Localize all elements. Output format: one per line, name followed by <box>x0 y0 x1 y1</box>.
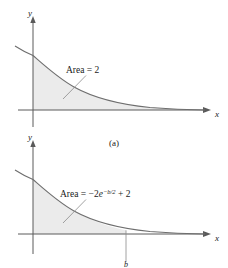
y-axis-label-b: y <box>27 134 32 142</box>
tick-label-b: b <box>124 260 128 268</box>
panel-a: y x Area = 2 <box>0 0 228 134</box>
area-annotation-b-exponent: −b/2 <box>103 188 116 195</box>
x-axis-label-b: x <box>214 233 219 243</box>
panel-a-plot: y x Area = 2 <box>0 0 228 134</box>
area-annotation-a-text: Area = 2 <box>66 65 100 75</box>
area-annotation-b-prefix: Area = <box>60 189 89 199</box>
x-axis-label-a: x <box>214 109 219 119</box>
y-axis-label-a: y <box>27 8 32 18</box>
area-annotation-b: Area = −2e−b/2 + 2 <box>60 188 131 200</box>
area-annotation-b-lead: −2 <box>89 189 99 199</box>
area-annotation-a: Area = 2 <box>66 65 100 75</box>
panel-b-plot: y x b Area = −2e−b/2 + 2 <box>0 134 228 268</box>
area-annotation-b-tail: + 2 <box>116 189 131 199</box>
figure-root: y x Area = 2 (a) <box>0 0 228 268</box>
panel-b: y x b Area = −2e−b/2 + 2 <box>0 134 228 268</box>
shaded-area-a <box>33 56 205 111</box>
